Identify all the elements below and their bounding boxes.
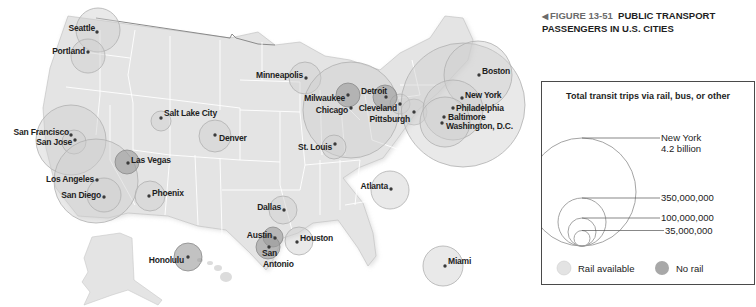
label-detroit: Detroit [361, 86, 387, 96]
scale-circle-35m [574, 231, 590, 247]
label-san-francisco: San Francisco [13, 127, 69, 137]
circle-miami [423, 246, 463, 286]
label-denver: Denver [219, 133, 248, 143]
label-milwaukee: Milwaukee [304, 93, 345, 103]
scale-label-350m: 350,000,000 [661, 192, 714, 203]
label-st-louis: St. Louis [298, 142, 333, 152]
caption-arrow-icon: ◀ [542, 12, 548, 21]
scale-leader-lines [582, 138, 664, 231]
label-austin: Austin [247, 230, 272, 240]
circle-portland [71, 39, 105, 73]
scale-circle-350m [558, 198, 606, 246]
scale-label-new-york: New York [661, 132, 701, 143]
scale-circle-100m [568, 218, 596, 246]
rail-available-swatch [557, 261, 571, 275]
label-san-diego: San Diego [61, 190, 101, 200]
label-salt-lake-city: Salt Lake City [164, 108, 217, 118]
label-las-vegas: Las Vegas [131, 155, 171, 165]
label-san: San [262, 248, 277, 258]
alaska-land [82, 233, 162, 305]
label-san-jose: San Jose [36, 137, 72, 147]
label-boston: Boston [482, 66, 510, 76]
label-antonio: Antonio [263, 259, 294, 269]
label-houston: Houston [300, 233, 333, 243]
figure-caption: ◀FIGURE 13-51 PUBLIC TRANSPORT PASSENGER… [542, 10, 754, 35]
label-chicago: Chicago [316, 105, 348, 115]
label-new-york: New York [465, 90, 502, 100]
label-los-angeles: Los Angeles [46, 174, 94, 184]
scale-label-35m: 35,000,000 [665, 225, 713, 236]
us-transit-map: Seattle Portland San Francisco San Jose … [0, 0, 540, 307]
label-seattle: Seattle [69, 23, 96, 33]
label-dallas: Dallas [257, 202, 281, 212]
scale-label-4-2-billion: 4.2 billion [661, 143, 701, 154]
scale-circle-4-2-billion [542, 138, 636, 246]
label-honolulu: Honolulu [149, 255, 184, 265]
label-atlanta: Atlanta [361, 181, 389, 191]
legend-box: Total transit trips via rail, bus, or ot… [541, 81, 755, 285]
label-minneapolis: Minneapolis [256, 70, 303, 80]
hawaii-islands [197, 258, 232, 282]
label-portland: Portland [52, 46, 85, 56]
label-miami: Miami [448, 256, 471, 266]
rail-available-label: Rail available [578, 263, 635, 274]
label-cleveland: Cleveland [359, 103, 397, 113]
label-phoenix: Phoenix [152, 188, 184, 198]
scale-label-100m: 100,000,000 [661, 212, 714, 223]
no-rail-swatch [655, 261, 669, 275]
figure-number: FIGURE 13-51 [550, 10, 613, 21]
label-washington-dc: Washington, D.C. [446, 121, 513, 131]
legend-graphic: New York 4.2 billion 350,000,000 100,000… [542, 82, 756, 286]
label-pittsburgh: Pittsburgh [370, 114, 411, 124]
no-rail-label: No rail [676, 263, 703, 274]
